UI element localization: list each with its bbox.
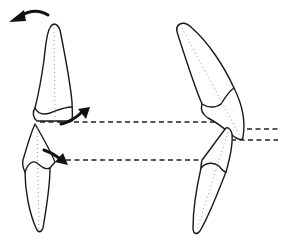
incisor-diagram [0, 0, 289, 244]
rotation-arrow-icon [9, 10, 48, 22]
left-upper-incisor-outline [33, 24, 72, 121]
left-upper-incisor [33, 24, 72, 121]
left-lower-incisor-outline [23, 124, 55, 232]
left-lower-incisor [23, 124, 55, 232]
right-lower-incisor [193, 128, 232, 234]
right-lower-incisor-outline [193, 128, 232, 234]
